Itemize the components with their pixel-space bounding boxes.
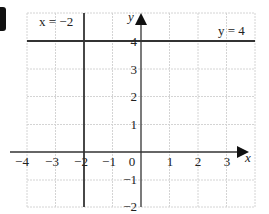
svg-text:1: 1	[167, 154, 174, 169]
svg-text:−3: −3	[45, 154, 59, 169]
svg-text:−2: −2	[123, 199, 137, 214]
label-x-equals-minus-2: x = −2	[39, 14, 73, 29]
coordinate-graph: x = −2 y = 4 y x −4 −3 −2 −1 0 1 2 3 4 3…	[0, 0, 269, 214]
x-axis-label: x	[244, 150, 251, 165]
svg-text:1: 1	[131, 117, 138, 132]
y-tick-labels: 4 3 2 1 −1 −2	[123, 34, 137, 214]
x-tick-labels: −4 −3 −2 −1 0 1 2 3	[15, 154, 230, 169]
svg-text:2: 2	[131, 89, 138, 104]
svg-text:4: 4	[131, 34, 138, 49]
svg-text:−4: −4	[15, 154, 29, 169]
svg-text:3: 3	[224, 154, 231, 169]
svg-text:2: 2	[195, 154, 202, 169]
y-axis-label: y	[126, 9, 134, 24]
y-axis-arrow-icon	[135, 13, 147, 25]
svg-text:3: 3	[131, 62, 138, 77]
svg-text:−1: −1	[102, 154, 116, 169]
label-y-equals-4: y = 4	[218, 23, 245, 38]
svg-text:−1: −1	[123, 172, 137, 187]
svg-text:0: 0	[129, 154, 136, 169]
svg-text:−2: −2	[74, 154, 88, 169]
